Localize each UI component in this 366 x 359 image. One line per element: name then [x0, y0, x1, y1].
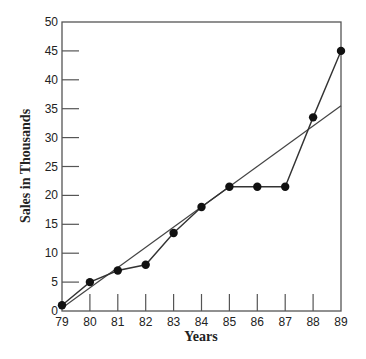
svg-text:5: 5 [51, 275, 58, 289]
data-point [281, 183, 289, 191]
data-point [309, 113, 317, 121]
svg-text:20: 20 [45, 188, 59, 202]
data-point [142, 261, 150, 269]
data-point [169, 229, 177, 237]
svg-text:10: 10 [45, 246, 59, 260]
svg-text:45: 45 [45, 44, 59, 58]
y-axis-label: Sales in Thousands [18, 108, 33, 223]
data-point [58, 301, 66, 309]
svg-text:85: 85 [223, 315, 237, 329]
data-point [225, 183, 233, 191]
svg-text:86: 86 [251, 315, 265, 329]
svg-text:80: 80 [83, 315, 97, 329]
data-point [253, 183, 261, 191]
svg-text:50: 50 [45, 15, 59, 29]
svg-text:82: 82 [139, 315, 153, 329]
svg-text:87: 87 [279, 315, 293, 329]
x-axis-label: Years [184, 329, 218, 344]
svg-text:88: 88 [306, 315, 320, 329]
svg-text:83: 83 [167, 315, 181, 329]
svg-text:40: 40 [45, 73, 59, 87]
svg-text:79: 79 [55, 315, 69, 329]
svg-text:25: 25 [45, 160, 59, 174]
data-point [197, 203, 205, 211]
svg-text:89: 89 [334, 315, 348, 329]
svg-text:84: 84 [195, 315, 209, 329]
svg-text:35: 35 [45, 102, 59, 116]
svg-text:30: 30 [45, 131, 59, 145]
data-point [86, 278, 94, 286]
sales-series [58, 47, 345, 310]
plot-frame [62, 22, 341, 311]
svg-text:81: 81 [111, 315, 125, 329]
data-point [114, 266, 122, 274]
data-point [337, 47, 345, 55]
sales-line-chart: 05101520253035404550 7980818283848586878… [0, 0, 366, 359]
svg-text:15: 15 [45, 217, 59, 231]
